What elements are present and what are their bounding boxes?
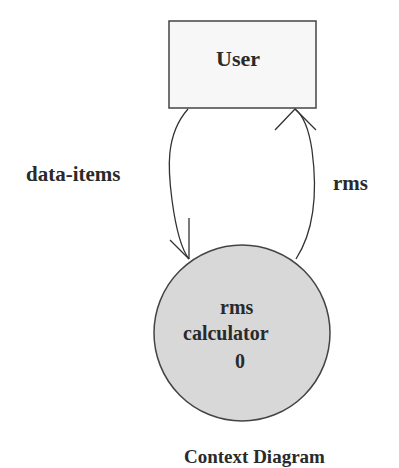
rms-flow-arrow xyxy=(295,109,315,259)
process-label-line-2: calculator xyxy=(183,322,269,345)
rms-arrowhead-icon xyxy=(275,109,316,130)
process-label-line-3: 0 xyxy=(235,350,245,373)
user-entity-label: User xyxy=(216,46,260,72)
process-label-line-1: rms xyxy=(220,296,253,319)
data-items-flow-arrow xyxy=(169,109,189,259)
diagram-caption: Context Diagram xyxy=(184,446,325,468)
data-items-flow-label: data-items xyxy=(26,162,120,187)
rms-flow-label: rms xyxy=(333,171,368,196)
